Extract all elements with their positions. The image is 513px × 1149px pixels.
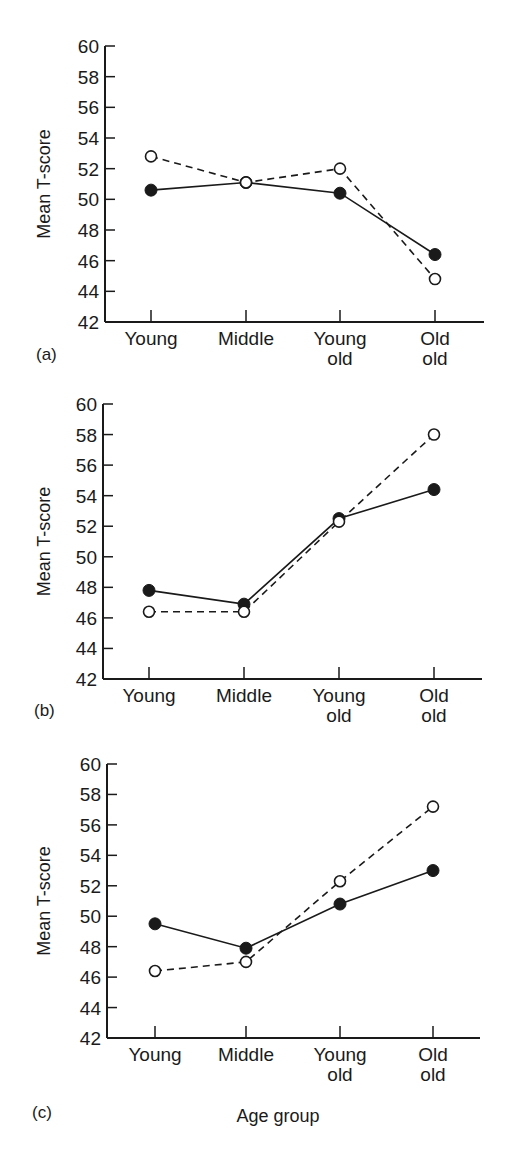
panel-label: (b) <box>34 701 55 720</box>
filled-circle-marker <box>240 942 252 954</box>
x-category-label: Young <box>312 685 365 706</box>
y-tick-label: 60 <box>76 394 97 415</box>
x-category-label: Middle <box>218 328 274 349</box>
y-tick-label: 56 <box>80 815 101 836</box>
filled-circle-marker <box>429 249 441 261</box>
y-tick-label: 44 <box>80 998 102 1019</box>
y-axis-title: Mean T-score <box>34 487 54 597</box>
y-tick-label: 46 <box>76 608 97 629</box>
y-tick-label: 56 <box>76 455 97 476</box>
y-tick-label: 48 <box>80 937 101 958</box>
filled-circle-marker <box>145 184 157 196</box>
solid-series-line <box>151 182 435 254</box>
y-tick-label: 58 <box>76 425 97 446</box>
open-circle-marker <box>241 177 252 188</box>
x-category-label: Middle <box>218 1044 274 1065</box>
y-tick-label: 48 <box>78 220 99 241</box>
x-category-label: Young <box>313 328 366 349</box>
x-category-label: Young <box>124 328 177 349</box>
y-tick-label: 50 <box>76 547 97 568</box>
dashed-series-line <box>151 156 435 279</box>
open-circle-marker <box>430 274 441 285</box>
x-category-label: old <box>422 348 447 369</box>
open-circle-marker <box>335 876 346 887</box>
x-category-label: old <box>327 1064 352 1085</box>
open-circle-marker <box>146 151 157 162</box>
filled-circle-marker <box>428 484 440 496</box>
y-axis-title: Mean T-score <box>34 129 54 239</box>
y-tick-label: 52 <box>76 516 97 537</box>
y-tick-label: 50 <box>78 189 99 210</box>
y-tick-label: 52 <box>80 876 101 897</box>
filled-circle-marker <box>334 187 346 199</box>
y-tick-label: 46 <box>80 967 101 988</box>
open-circle-marker <box>144 606 155 617</box>
dashed-series-line <box>149 435 434 612</box>
open-circle-marker <box>334 516 345 527</box>
open-circle-marker <box>150 966 161 977</box>
x-category-label: Old <box>418 1044 448 1065</box>
chart-panel-b: 42444648505254565860Mean T-scoreYoungMid… <box>34 394 482 726</box>
y-tick-label: 60 <box>78 36 99 57</box>
open-circle-marker <box>335 163 346 174</box>
y-tick-label: 54 <box>78 128 100 149</box>
y-tick-label: 56 <box>78 97 99 118</box>
y-tick-label: 50 <box>80 906 101 927</box>
chart-panel-a: 42444648505254565860Mean T-scoreYoungMid… <box>34 36 484 369</box>
x-category-label: Middle <box>216 685 272 706</box>
x-category-label: Young <box>122 685 175 706</box>
filled-circle-marker <box>427 865 439 877</box>
x-axis-title: Age group <box>236 1106 319 1126</box>
filled-circle-marker <box>149 918 161 930</box>
filled-circle-marker <box>334 898 346 910</box>
y-tick-label: 58 <box>78 67 99 88</box>
x-category-label: old <box>421 705 446 726</box>
y-tick-label: 42 <box>76 669 97 690</box>
open-circle-marker <box>429 429 440 440</box>
open-circle-marker <box>239 606 250 617</box>
panel-label: (c) <box>32 1103 52 1122</box>
x-category-label: Young <box>128 1044 181 1065</box>
figure-three-panel-line-chart: 42444648505254565860Mean T-scoreYoungMid… <box>0 0 513 1149</box>
open-circle-marker <box>241 956 252 967</box>
x-category-label: old <box>327 348 352 369</box>
panel-label: (a) <box>36 345 57 364</box>
x-category-label: old <box>420 1064 445 1085</box>
y-tick-label: 52 <box>78 159 99 180</box>
x-category-label: Old <box>420 328 450 349</box>
dashed-series-line <box>155 807 433 971</box>
y-tick-label: 54 <box>76 486 98 507</box>
x-category-label: Old <box>419 685 449 706</box>
y-tick-label: 44 <box>76 638 98 659</box>
chart-panel-c: 42444648505254565860Mean T-scoreYoungMid… <box>32 754 480 1122</box>
y-tick-label: 58 <box>80 784 101 805</box>
filled-circle-marker <box>143 584 155 596</box>
y-tick-label: 48 <box>76 577 97 598</box>
y-tick-label: 42 <box>78 312 99 333</box>
y-tick-label: 42 <box>80 1028 101 1049</box>
x-category-label: Young <box>313 1044 366 1065</box>
y-tick-label: 54 <box>80 845 102 866</box>
y-tick-label: 44 <box>78 281 100 302</box>
solid-series-line <box>149 490 434 605</box>
open-circle-marker <box>428 801 439 812</box>
x-category-label: old <box>326 705 351 726</box>
solid-series-line <box>155 871 433 949</box>
y-tick-label: 60 <box>80 754 101 775</box>
y-tick-label: 46 <box>78 251 99 272</box>
y-axis-title: Mean T-score <box>34 846 54 956</box>
